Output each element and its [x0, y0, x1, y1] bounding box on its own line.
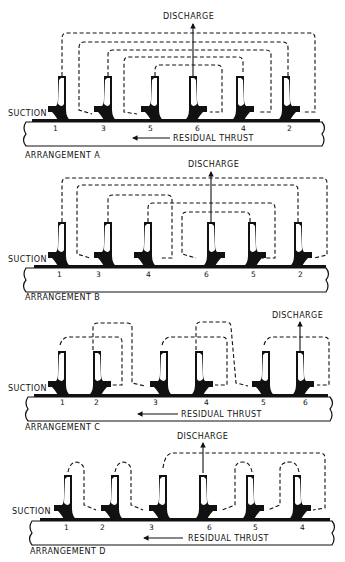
impeller-stage-4 — [189, 351, 213, 399]
flow-path — [68, 462, 96, 510]
impeller-stage-1 — [54, 475, 78, 523]
stage-number: 5 — [253, 523, 258, 532]
discharge-label: DISCHARGE — [272, 311, 323, 320]
impeller-stage-1 — [48, 351, 72, 399]
stage-number: 5 — [148, 124, 153, 133]
arrangement-c: DISCHARGE SUCTION 1 2 3 4 5 6 RESIDUAL T… — [8, 311, 333, 432]
impeller-stage-2 — [87, 351, 111, 399]
impeller-stage-1 — [48, 76, 72, 124]
flow-path — [155, 65, 222, 112]
impeller-stage-2 — [101, 475, 125, 523]
impeller-stage-5 — [242, 222, 266, 270]
stage-number: 4 — [146, 270, 151, 279]
stage-number: 3 — [153, 398, 158, 407]
impeller-stage-2 — [276, 76, 300, 124]
stage-number: 3 — [101, 124, 106, 133]
impeller-stage-4 — [134, 222, 158, 270]
impeller-stage-5 — [141, 76, 165, 124]
flow-path — [162, 337, 227, 385]
impeller-stage-4 — [230, 76, 254, 124]
flow-path — [60, 337, 122, 385]
stage-number: 2 — [298, 270, 303, 279]
impeller-stage-5 — [252, 351, 276, 399]
impeller-stage-6 — [183, 76, 207, 124]
shaft — [26, 397, 333, 421]
stage-number: 5 — [251, 270, 256, 279]
stage-number: 6 — [207, 523, 212, 532]
discharge-label: DISCHARGE — [163, 12, 214, 21]
stage-number: 6 — [195, 124, 200, 133]
stage-number: 4 — [204, 398, 209, 407]
arrangement-b: DISCHARGE SUCTION 1 3 4 6 5 2 ARRANGEMEN… — [8, 160, 329, 302]
stage-number: 3 — [96, 270, 101, 279]
stage-number: 1 — [57, 270, 62, 279]
flow-path — [124, 57, 243, 114]
impeller-stage-6 — [201, 222, 225, 270]
arrangement-a: DISCHARGE SUCTION 1 3 5 6 4 2 RESIDUAL T… — [8, 12, 325, 160]
flow-path — [196, 322, 248, 386]
residual-thrust-label: RESIDUAL THRUST — [188, 534, 269, 543]
impeller-stage-6 — [193, 475, 217, 523]
suction-label: SUCTION — [12, 507, 51, 516]
impeller-stage-3 — [150, 351, 174, 399]
impeller-arrangements-diagram: DISCHARGE SUCTION 1 3 5 6 4 2 RESIDUAL T… — [0, 0, 345, 562]
flow-path — [115, 462, 143, 510]
stage-number: 2 — [287, 124, 292, 133]
stage-number: 1 — [53, 124, 58, 133]
arrangement-label: ARRANGEMENT C — [25, 423, 100, 432]
discharge-label: DISCHARGE — [177, 432, 228, 441]
flow-path — [62, 33, 315, 112]
impeller-stage-3 — [94, 76, 118, 124]
discharge-label: DISCHARGE — [188, 160, 239, 169]
impeller-stage-3 — [94, 222, 118, 270]
suction-label: SUCTION — [8, 255, 47, 264]
stage-number: 4 — [300, 523, 305, 532]
arrangement-label: ARRANGEMENT D — [30, 547, 106, 556]
suction-label: SUCTION — [8, 109, 47, 118]
stage-number: 2 — [94, 398, 99, 407]
arrangement-label: ARRANGEMENT B — [25, 293, 100, 302]
stage-number: 1 — [60, 398, 65, 407]
stage-number: 4 — [241, 124, 246, 133]
stage-number: 3 — [149, 523, 154, 532]
residual-thrust-label: RESIDUAL THRUST — [173, 134, 254, 143]
shaft — [30, 521, 335, 545]
shaft — [24, 268, 329, 292]
flow-path — [108, 195, 172, 258]
flow-path — [62, 178, 327, 258]
impeller-stage-5 — [240, 475, 264, 523]
stage-number: 5 — [261, 398, 266, 407]
impeller-stage-4 — [287, 475, 311, 523]
arrangement-d: DISCHARGE SUCTION 1 2 3 6 5 4 RESIDUAL T… — [12, 432, 335, 556]
suction-label: SUCTION — [8, 384, 47, 393]
stage-number: 2 — [100, 523, 105, 532]
impeller-stage-3 — [149, 475, 173, 523]
stage-number: 6 — [303, 398, 308, 407]
impeller-stage-6 — [290, 351, 314, 399]
residual-thrust-label: RESIDUAL THRUST — [181, 410, 262, 419]
stage-number: 6 — [204, 270, 209, 279]
stage-number: 1 — [64, 523, 69, 532]
arrangement-label: ARRANGEMENT A — [25, 151, 100, 160]
impeller-stage-1 — [48, 222, 72, 270]
impeller-stage-2 — [288, 222, 312, 270]
